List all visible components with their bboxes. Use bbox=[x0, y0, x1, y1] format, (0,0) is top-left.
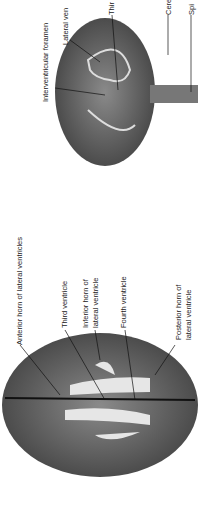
label-inferior-horn-2: lateral ventricle bbox=[92, 278, 101, 328]
label-third-ventricle: Third ventricle bbox=[61, 281, 70, 328]
label-posterior-horn-2: lateral ventricle bbox=[185, 290, 194, 340]
label-spinal: Spi bbox=[188, 4, 197, 15]
label-posterior-horn-1: Posterior horn of bbox=[175, 285, 184, 340]
brain-illustration bbox=[0, 0, 206, 506]
label-anterior-horn: Anterior horn of lateral ventricles bbox=[16, 237, 25, 345]
label-fourth-ventricle: Fourth ventricle bbox=[120, 276, 129, 328]
label-interventricular-foramen: Interventricular foramen bbox=[42, 23, 51, 102]
label-cerebral: Cere bbox=[165, 0, 174, 15]
superior-brain-view bbox=[2, 330, 198, 477]
label-lateral-ventricle: Lateral ven bbox=[62, 8, 71, 45]
label-inferior-horn-1: Inferior horn of bbox=[82, 279, 91, 328]
label-third-ventricle-top: Thir bbox=[108, 2, 117, 15]
lateral-brain-view bbox=[55, 15, 198, 166]
